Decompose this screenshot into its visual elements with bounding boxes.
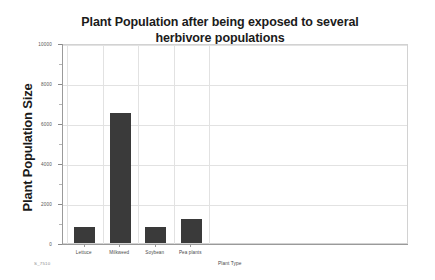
y-axis-tick-label: 8000 [18,82,52,87]
y-axis-minor-tick [59,104,62,105]
y-axis-tick-mark [58,164,62,165]
y-axis-minor-tick [59,224,62,225]
x-axis-tick-label: Milkweed [109,250,129,255]
grid-line-horizontal [63,45,407,46]
y-axis-tick-mark [58,124,62,125]
grid-line-vertical [103,45,104,245]
chart-title: Plant Population after being exposed to … [60,14,380,46]
y-axis-tick-mark [58,44,62,45]
x-axis-tick-mark [155,244,156,247]
x-axis-title: Plant Type [218,261,242,266]
y-axis-tick-mark [58,204,62,205]
y-axis-tick-label: 6000 [18,122,52,127]
y-axis-tick-label: 2000 [18,202,52,207]
bar [145,227,166,243]
x-axis-tick-label: Lettuce [76,250,92,255]
grid-line-vertical [209,45,210,245]
y-axis-tick-label: 10000 [18,42,52,47]
x-axis-tick-mark [119,244,120,247]
x-axis-line [62,244,408,245]
bar [74,227,95,243]
bar [110,113,131,243]
watermark-label: S_7510 [34,261,50,266]
y-axis-minor-tick [59,64,62,65]
y-axis-tick-mark [58,84,62,85]
x-axis-tick-mark [190,244,191,247]
y-axis-tick-label: 4000 [18,162,52,167]
chart-title-line-1: Plant Population after being exposed to … [60,14,380,30]
plot-area [62,44,408,244]
bar-chart: Plant Population after being exposed to … [0,0,435,280]
grid-line-vertical [174,45,175,245]
x-axis-tick-mark [84,244,85,247]
y-axis-tick-label: 0 [18,242,52,247]
y-axis-minor-tick [59,184,62,185]
y-axis-title: Plant Population Size [20,63,35,233]
y-axis-tick-mark [58,244,62,245]
grid-line-horizontal [63,85,407,86]
x-axis-tick-label: Soybean [145,250,164,255]
grid-line-vertical [67,45,68,245]
grid-line-vertical [138,45,139,245]
y-axis-minor-tick [59,144,62,145]
bar [181,219,202,243]
y-axis-line [62,44,63,244]
x-axis-tick-label: Pea plants [179,250,202,255]
